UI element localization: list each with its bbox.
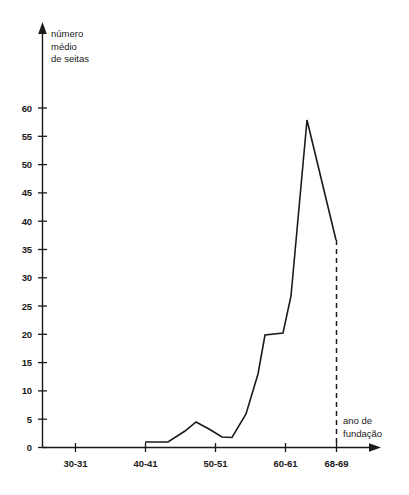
x-tick-label-30-31: 30-31 [46,458,106,469]
y-tick-label-20: 20 [6,329,32,340]
y-axis-title-line-2: médio [51,41,89,54]
y-axis-title: número médio de seitas [51,28,89,66]
y-tick-label-25: 25 [6,301,32,312]
x-tick-label-40-41: 40-41 [116,458,176,469]
x-axis-arrow-icon [369,443,381,452]
y-tick-label-10: 10 [6,385,32,396]
y-axis-title-line-3: de seitas [51,53,89,66]
y-tick-label-0: 0 [6,442,32,453]
x-tick-label-68-69: 68-69 [307,458,367,469]
y-tick-label-45: 45 [6,187,32,198]
data-line-series [145,120,336,442]
x-axis-title-line-2: fundação [343,428,382,441]
y-axis-arrow-icon [38,22,47,34]
y-tick-label-55: 55 [6,131,32,142]
y-tick-label-40: 40 [6,216,32,227]
x-axis-title: ano de fundação [343,415,382,440]
y-axis-title-line-1: número [51,28,89,41]
y-tick-label-50: 50 [6,159,32,170]
x-axis-title-line-1: ano de [343,415,382,428]
y-tick-label-35: 35 [6,244,32,255]
x-tick-label-50-51: 50-51 [186,458,246,469]
y-tick-label-5: 5 [6,414,32,425]
y-tick-label-30: 30 [6,272,32,283]
chart-container: 0 5 10 15 20 25 30 35 40 45 50 55 60 30-… [0,0,409,495]
y-tick-label-15: 15 [6,357,32,368]
y-tick-label-60: 60 [6,103,32,114]
